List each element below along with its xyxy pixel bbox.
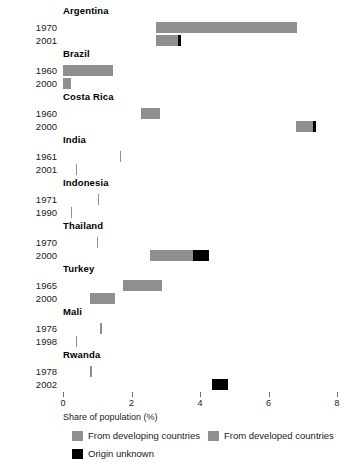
bar-segment-developing <box>90 366 92 377</box>
bar-segment-developing <box>97 237 98 248</box>
country-label: Rwanda <box>63 349 100 360</box>
bar-track <box>63 206 337 219</box>
bar-track <box>63 335 337 348</box>
year-row: 1971 <box>0 193 352 206</box>
bar-segment-developing <box>123 280 162 291</box>
year-label: 1990 <box>0 206 57 219</box>
year-row: 1990 <box>0 206 352 219</box>
bar-track <box>63 292 337 305</box>
bar-segment-developing <box>76 164 77 175</box>
bar-segment-developing <box>76 336 77 347</box>
plot-area: Argentina19702001Brazil19602000Costa Ric… <box>0 0 352 392</box>
axis-tick <box>200 392 201 397</box>
legend-item-unknown: Origin unknown <box>72 448 154 459</box>
bar-segment-unknown <box>212 379 228 390</box>
bar-segment-developing <box>71 207 72 218</box>
bar-track <box>63 365 337 378</box>
year-row: 1960 <box>0 107 352 120</box>
year-label: 1960 <box>0 107 57 120</box>
bar-track <box>63 120 337 133</box>
year-row: 1978 <box>0 365 352 378</box>
bar-segment-developing <box>100 323 102 334</box>
axis-tick <box>63 392 64 397</box>
country-label: Costa Rica <box>63 91 114 102</box>
bar-segment-developing <box>156 35 178 46</box>
bar-segment-developed <box>156 22 296 33</box>
bar-track <box>63 21 337 34</box>
axis-tick-label: 4 <box>197 398 202 408</box>
x-axis: 02468 Share of population (%) <box>0 392 352 428</box>
legend-item-developing: From developing countries <box>72 430 200 441</box>
year-label: 1965 <box>0 279 57 292</box>
legend-item-developed: From developed countries <box>208 430 334 441</box>
bar-track <box>63 77 337 90</box>
year-label: 1970 <box>0 236 57 249</box>
bar-track <box>63 322 337 335</box>
axis-tick-label: 6 <box>266 398 271 408</box>
legend-label-developed: From developed countries <box>224 430 334 441</box>
year-label: 2000 <box>0 77 57 90</box>
year-row: 1998 <box>0 335 352 348</box>
year-label: 2000 <box>0 249 57 262</box>
axis-tick <box>132 392 133 397</box>
bar-segment-developed <box>63 65 113 76</box>
bar-track <box>63 249 337 262</box>
year-label: 2000 <box>0 292 57 305</box>
bar-track <box>63 378 337 391</box>
bar-segment-developing <box>90 293 115 304</box>
year-row: 1960 <box>0 64 352 77</box>
country-label: India <box>63 134 86 145</box>
year-label: 1970 <box>0 21 57 34</box>
axis-tick <box>337 392 338 397</box>
axis-tick-label: 8 <box>334 398 339 408</box>
year-row: 1965 <box>0 279 352 292</box>
year-label: 1976 <box>0 322 57 335</box>
year-row: 2002 <box>0 378 352 391</box>
year-label: 1960 <box>0 64 57 77</box>
axis-tick-label: 2 <box>129 398 134 408</box>
year-label: 1998 <box>0 335 57 348</box>
year-row: 1970 <box>0 236 352 249</box>
year-row: 2000 <box>0 77 352 90</box>
year-row: 1970 <box>0 21 352 34</box>
country-label: Brazil <box>63 48 90 59</box>
year-label: 2001 <box>0 163 57 176</box>
bar-track <box>63 64 337 77</box>
bar-track <box>63 279 337 292</box>
country-label: Indonesia <box>63 177 109 188</box>
country-label: Turkey <box>63 263 94 274</box>
year-label: 1971 <box>0 193 57 206</box>
bar-segment-unknown <box>313 121 316 132</box>
axis-tick-label: 0 <box>60 398 65 408</box>
axis-tick <box>269 392 270 397</box>
x-axis-title: Share of population (%) <box>63 412 158 422</box>
year-row: 1976 <box>0 322 352 335</box>
legend-swatch-unknown <box>72 449 83 459</box>
country-label: Mali <box>63 306 82 317</box>
country-label: Thailand <box>63 220 103 231</box>
bar-segment-unknown <box>193 250 209 261</box>
year-label: 2000 <box>0 120 57 133</box>
country-label: Argentina <box>63 5 109 16</box>
year-label: 1961 <box>0 150 57 163</box>
year-row: 2001 <box>0 34 352 47</box>
legend-label-developing: From developing countries <box>88 430 200 441</box>
chart-legend: From developing countries From developed… <box>0 430 352 475</box>
year-row: 2000 <box>0 292 352 305</box>
bar-segment-developing <box>63 78 71 89</box>
bar-track <box>63 34 337 47</box>
legend-label-unknown: Origin unknown <box>88 448 154 459</box>
legend-swatch-developed <box>208 431 219 441</box>
bar-track <box>63 236 337 249</box>
bar-segment-unknown <box>178 35 181 46</box>
year-row: 2000 <box>0 120 352 133</box>
bar-segment-developing <box>98 194 99 205</box>
year-label: 2002 <box>0 378 57 391</box>
year-row: 2000 <box>0 249 352 262</box>
bar-segment-developing <box>296 121 313 132</box>
migration-share-chart: Argentina19702001Brazil19602000Costa Ric… <box>0 0 352 475</box>
bar-segment-developing <box>150 250 193 261</box>
year-label: 2001 <box>0 34 57 47</box>
bar-segment-developing <box>120 151 121 162</box>
bar-segment-developing <box>141 108 160 119</box>
